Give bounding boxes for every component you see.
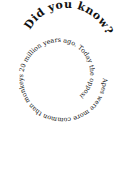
spiral-text-graphic: Did you know? Apes were more common than…	[0, 0, 124, 169]
title-text: Did you know?	[22, 0, 116, 37]
title-path: Did you know?	[22, 0, 116, 37]
